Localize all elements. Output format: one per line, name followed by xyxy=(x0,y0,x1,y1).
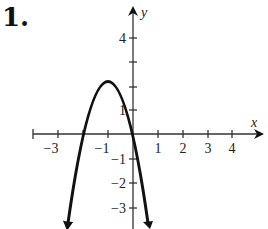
x-axis-label: x xyxy=(250,115,258,130)
y-axis: 4 1 −1 −2 −3 y xyxy=(111,5,148,229)
y-tick-label: −2 xyxy=(111,176,126,191)
x-axis: −3 −1 1 2 3 4 x xyxy=(33,115,262,156)
x-tick-label: 2 xyxy=(180,141,187,156)
x-tick-label: 4 xyxy=(229,141,236,156)
y-tick-label: 4 xyxy=(119,31,126,46)
graph: −3 −1 1 2 3 4 x 4 1 −1 −2 −3 y xyxy=(0,0,268,229)
x-tick-label: 1 xyxy=(155,141,162,156)
x-tick-label: −1 xyxy=(95,141,110,156)
arrow-down-left-icon xyxy=(63,221,73,229)
arrow-down-right-icon xyxy=(143,221,153,229)
x-tick-label: 3 xyxy=(205,141,212,156)
x-tick-label: −3 xyxy=(44,141,59,156)
y-axis-label: y xyxy=(139,5,148,20)
y-tick-label: −3 xyxy=(111,201,126,216)
y-tick-label: −1 xyxy=(111,152,126,167)
